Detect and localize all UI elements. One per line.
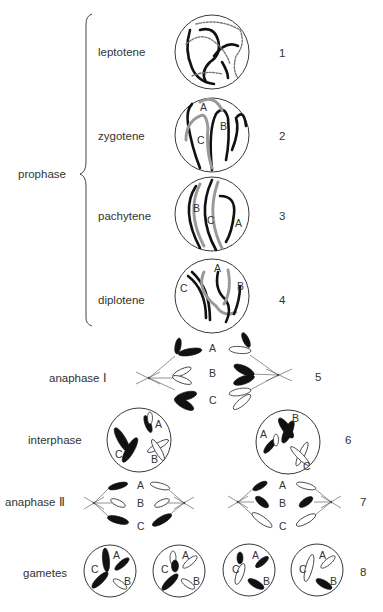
- letter-a: A: [209, 342, 216, 354]
- letter-c: C: [209, 394, 217, 406]
- letter-a: A: [260, 428, 267, 440]
- letter-c: C: [197, 134, 205, 146]
- stage-number-4: 4: [279, 294, 286, 306]
- letter-b: B: [137, 497, 144, 509]
- letter-b: B: [263, 575, 270, 587]
- letter-a: A: [319, 549, 326, 561]
- cell-pachytene: B C A: [175, 177, 249, 251]
- letter-a: A: [182, 549, 189, 561]
- stage-number-5: 5: [315, 371, 321, 383]
- letter-c: C: [299, 563, 307, 575]
- letter-a: A: [200, 101, 207, 113]
- letter-a: A: [279, 479, 286, 491]
- prophase-label: prophase: [18, 168, 66, 180]
- stage-number-2: 2: [279, 130, 285, 142]
- letter-c: C: [161, 563, 169, 575]
- letter-c: C: [303, 460, 311, 472]
- letter-a: A: [137, 479, 144, 491]
- letter-a: A: [214, 262, 221, 274]
- letter-c: C: [115, 448, 123, 460]
- letter-b: B: [220, 120, 227, 132]
- stage-label-interphase: interphase: [28, 434, 82, 446]
- cell-diplotene: A B C: [175, 259, 249, 333]
- gamete-4: C A B: [291, 544, 343, 596]
- stage-label-leptotene: leptotene: [98, 46, 145, 58]
- anaphase-2-left: A B C: [84, 479, 194, 532]
- letter-b: B: [193, 575, 200, 587]
- letter-a: A: [252, 549, 259, 561]
- gamete-3: C A B: [223, 544, 275, 596]
- letter-b: B: [124, 575, 131, 587]
- meiosis-diagram: prophase leptotene zygotene pachytene di…: [0, 0, 383, 612]
- letter-c: C: [91, 563, 99, 575]
- letter-b: B: [330, 575, 337, 587]
- letter-a: A: [235, 217, 242, 229]
- prophase-bracket: [80, 14, 92, 326]
- anaphase-2-right: A B C: [228, 479, 341, 532]
- cell-interphase-left: A B C: [107, 408, 171, 472]
- stage-number-8: 8: [360, 566, 366, 578]
- letter-c: C: [232, 563, 240, 575]
- letter-c: C: [180, 282, 188, 294]
- stage-number-7: 7: [360, 496, 366, 508]
- stage-label-pachytene: pachytene: [98, 210, 151, 222]
- cell-interphase-right: A B C: [256, 410, 320, 474]
- letter-b: B: [279, 497, 286, 509]
- stage-label-anaphase-2: anaphase Ⅱ: [5, 496, 65, 508]
- cell-leptotene: [175, 15, 249, 89]
- gamete-1: C A B: [84, 545, 136, 597]
- stage-label-gametes: gametes: [23, 567, 67, 579]
- stage-label-diplotene: diplotene: [98, 294, 145, 306]
- stage-number-3: 3: [279, 210, 285, 222]
- gamete-2: C A B: [153, 545, 205, 597]
- letter-b: B: [193, 202, 200, 214]
- cell-zygotene: A B C: [175, 98, 249, 172]
- letter-b: B: [209, 367, 216, 379]
- letter-c: C: [207, 214, 215, 226]
- anaphase-1-figure: A B C: [136, 331, 292, 412]
- stage-label-zygotene: zygotene: [98, 130, 145, 142]
- letter-b: B: [151, 453, 158, 465]
- stage-label-anaphase-1: anaphase Ⅰ: [49, 372, 107, 384]
- letter-a: A: [113, 549, 120, 561]
- letter-b: B: [292, 412, 299, 424]
- letter-c: C: [137, 520, 145, 532]
- stage-number-1: 1: [279, 47, 285, 59]
- stage-number-6: 6: [345, 434, 351, 446]
- letter-c: C: [279, 520, 287, 532]
- letter-a: A: [155, 418, 162, 430]
- letter-b: B: [237, 280, 244, 292]
